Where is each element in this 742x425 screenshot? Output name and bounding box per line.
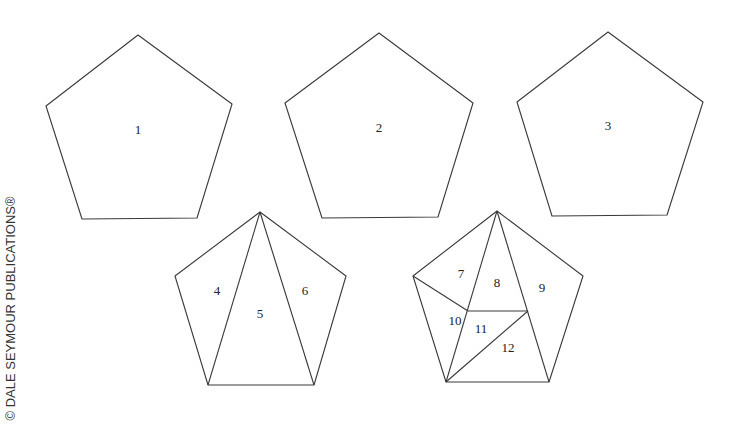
dissection-line [208,212,260,385]
region-label: 5 [257,306,264,321]
region-label: 3 [605,118,612,133]
region-label: 11 [475,321,488,336]
dissection-line [413,276,468,311]
pentagon-outline [413,211,583,382]
region-label: 9 [539,280,546,295]
pentagon-5: 789101112 [413,211,583,382]
region-label: 10 [449,313,462,328]
region-label: 4 [214,283,221,298]
pentagon-1: 1 [46,35,232,219]
region-label: 1 [135,122,142,137]
pentagon-3: 3 [517,32,703,216]
region-label: 8 [494,275,501,290]
dissection-line [260,212,314,385]
dissection-line [497,211,549,382]
pentagon-2: 2 [285,33,473,218]
pentagon-4: 456 [175,212,346,385]
region-label: 7 [458,266,465,281]
region-label: 2 [376,120,383,135]
dissection-line [446,211,497,382]
copyright-notice: © DALE SEYMOUR PUBLICATIONS® [3,241,18,421]
region-label: 12 [502,340,515,355]
region-label: 6 [302,283,309,298]
pentagon-diagram: 123456789101112 [0,0,742,425]
pentagon-outline [175,212,346,385]
